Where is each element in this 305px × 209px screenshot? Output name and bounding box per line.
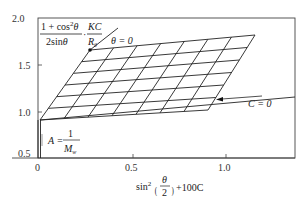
svg-text:θ: θ — [162, 174, 167, 185]
x-tick-1.0: 1.0 — [218, 162, 231, 173]
constant-concentration-line — [57, 85, 224, 97]
zimm-plot: 2.0 1.5 1.0 0.5 0 0.5 1.0 1 + cos2θ 2sin… — [0, 0, 305, 209]
x-tick-0.5: 0.5 — [125, 162, 138, 173]
intercept-label: A = 1 Mw — [47, 128, 80, 155]
svg-text:1 + cos2θ: 1 + cos2θ — [41, 20, 78, 32]
c0-arrowhead-icon — [216, 97, 223, 102]
constant-concentration-line — [73, 60, 239, 73]
theta0-point — [88, 48, 92, 52]
x-ticks — [133, 154, 226, 158]
y-tick-1.0: 1.0 — [18, 107, 31, 118]
constant-angle-line — [64, 48, 114, 119]
svg-text:A =: A = — [47, 135, 63, 146]
svg-text:Rθ: Rθ — [87, 36, 97, 48]
svg-text:KC: KC — [87, 21, 102, 32]
constant-angle-line — [160, 39, 208, 113]
x-axis-label: sin2 ( θ 2 ) +100C — [136, 174, 204, 198]
constant-angle-line — [112, 44, 161, 116]
constant-concentration-line — [40, 110, 208, 120]
c0-label: C = 0 — [248, 98, 271, 109]
constant-concentration-line — [65, 73, 232, 86]
constant-angle-line — [88, 46, 137, 117]
svg-text:+100C: +100C — [176, 182, 204, 193]
constant-concentration-line — [82, 48, 248, 62]
y-tick-0.5: 0.5 — [18, 148, 31, 159]
svg-text:1: 1 — [68, 128, 73, 139]
zimm-grid — [40, 35, 255, 120]
y-tick-2.0: 2.0 — [12, 13, 25, 24]
svg-text:): ) — [172, 185, 174, 197]
svg-text:sin2: sin2 — [136, 180, 152, 192]
y-tick-1.5: 1.5 — [18, 60, 31, 71]
svg-text:·: · — [83, 29, 86, 40]
x-tick-0: 0 — [35, 162, 40, 173]
svg-text:2: 2 — [162, 187, 167, 198]
svg-text:2sinθ: 2sinθ — [46, 36, 68, 47]
y-ticks — [38, 65, 42, 112]
constant-angle-line — [40, 50, 90, 120]
y-axis-label: 1 + cos2θ 2sinθ · KC Rθ — [40, 20, 102, 48]
svg-text:(: ( — [155, 185, 157, 197]
plot-frame — [38, 18, 295, 158]
constant-angle-line — [184, 37, 231, 111]
constant-angle-line — [136, 41, 184, 114]
svg-text:Mw: Mw — [63, 143, 76, 155]
theta0-label: θ = 0 — [111, 35, 133, 46]
